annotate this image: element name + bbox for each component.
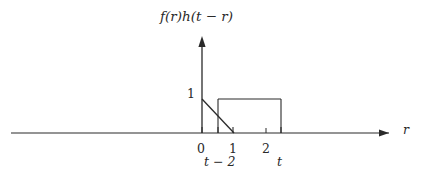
- y-axis-value-label: 1: [187, 88, 195, 101]
- value-axis-arrowhead: [198, 36, 205, 47]
- convolution-figure: f(r)h(t − r) 1 r 0 1 2 t − 2 t: [0, 0, 424, 180]
- tick-label-t: t: [277, 156, 282, 169]
- plot-canvas: [0, 0, 424, 180]
- curve-expression-label: f(r)h(t − r): [160, 10, 233, 24]
- r-axis-label: r: [403, 124, 409, 137]
- tick-label-two: 2: [262, 143, 270, 156]
- r-axis-arrowhead: [379, 129, 389, 136]
- tick-label-t-minus-2: t − 2: [204, 156, 235, 169]
